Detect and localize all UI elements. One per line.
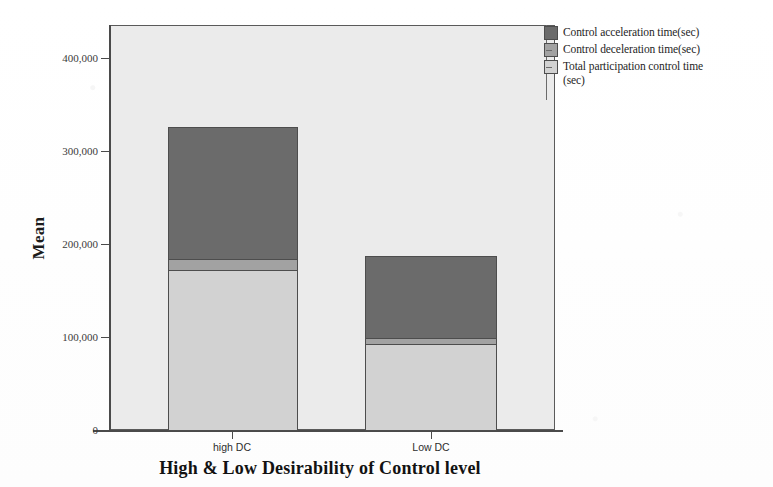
bar-segment-low-dc-control-deceleration-time[interactable] — [365, 338, 497, 345]
y-tick-label-100000: 100,000 — [62, 331, 98, 343]
legend-item-control-acceleration-time[interactable]: Control acceleration time(sec) — [538, 25, 770, 41]
y-tick-100000 — [101, 337, 110, 338]
bar-segment-high-dc-control-deceleration-time[interactable] — [168, 259, 298, 271]
x-axis-title: High & Low Desirability of Control level — [0, 458, 640, 479]
y-tick-200000 — [101, 244, 110, 245]
y-tick-label-200000: 200,000 — [62, 238, 98, 250]
y-axis-title: Mean — [29, 193, 49, 283]
legend-connector-icon — [546, 67, 552, 68]
y-tick-400000 — [101, 58, 110, 59]
legend-label-total-participation-control-time: Total participation control time (sec) — [563, 59, 713, 87]
bar-segment-high-dc-total-participation-control-time[interactable] — [168, 270, 298, 431]
bar-segment-low-dc-total-participation-control-time[interactable] — [365, 344, 497, 431]
bar-segment-high-dc-control-acceleration-time[interactable] — [168, 127, 298, 260]
legend-label-control-acceleration-time: Control acceleration time(sec) — [563, 25, 699, 40]
y-tick-label-400000: 400,000 — [62, 52, 98, 64]
legend-item-control-deceleration-time[interactable]: Control deceleration time(sec) — [538, 42, 770, 58]
legend-connector-icon — [546, 50, 552, 51]
y-tick-label-0: 0 — [93, 424, 99, 436]
legend-item-total-participation-control-time[interactable]: Total participation control time (sec) — [538, 59, 770, 87]
x-tick-high-dc — [232, 431, 233, 439]
y-tick-0 — [101, 430, 110, 431]
bar-segment-low-dc-control-acceleration-time[interactable] — [365, 256, 497, 339]
x-tick-low-dc — [431, 431, 432, 439]
legend-connector-icon — [546, 33, 552, 34]
y-tick-300000 — [101, 151, 110, 152]
y-tick-label-300000: 300,000 — [62, 145, 98, 157]
x-tick-label-high-dc: high DC — [213, 441, 251, 453]
legend-label-control-deceleration-time: Control deceleration time(sec) — [563, 42, 700, 57]
x-tick-label-low-dc: Low DC — [412, 441, 449, 453]
legend: Control acceleration time(sec) Control d… — [538, 25, 770, 88]
y-axis-line — [109, 25, 111, 431]
